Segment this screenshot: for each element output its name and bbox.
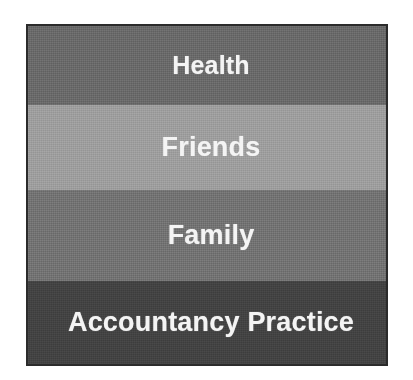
band-label-friends: Friends — [162, 132, 261, 163]
stacked-bands-diagram: Health Friends Family Accountancy Practi… — [26, 24, 388, 366]
band-accountancy-practice: Accountancy Practice — [28, 281, 386, 364]
band-label-family: Family — [168, 220, 255, 251]
band-label-accountancy-practice: Accountancy Practice — [68, 307, 354, 338]
band-label-health: Health — [172, 51, 250, 80]
band-friends: Friends — [28, 105, 386, 190]
band-health: Health — [28, 26, 386, 105]
band-family: Family — [28, 190, 386, 281]
